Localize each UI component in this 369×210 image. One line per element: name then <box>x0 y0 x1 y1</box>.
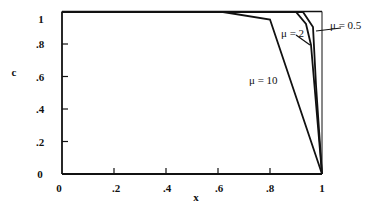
x-tick-label: .4 <box>163 182 172 194</box>
x-tick-label: 1 <box>319 182 325 194</box>
x-tick-label: .2 <box>112 182 121 194</box>
y-tick-label: 0 <box>37 168 43 180</box>
y-ticks <box>62 44 68 142</box>
series-label-mu-0-5: μ = 0.5 <box>330 19 362 31</box>
y-tick-label: 1 <box>38 13 44 25</box>
chart: 0 .2 .4 .6 .8 1 0 .2 .4 .6 .8 1 x c μ = … <box>0 0 369 210</box>
y-tick-label: .2 <box>36 136 45 148</box>
y-axis-label: c <box>12 66 17 78</box>
x-axis-label: x <box>193 191 199 203</box>
x-tick-label: 0 <box>56 182 62 194</box>
x-tick-label: .8 <box>266 182 275 194</box>
series-label-mu-2: μ = 2 <box>281 27 304 39</box>
y-tick-label: .8 <box>36 38 45 50</box>
y-tick-label: .6 <box>36 71 45 83</box>
series-label-mu-10: μ = 10 <box>249 74 278 86</box>
x-tick-label: .6 <box>215 182 224 194</box>
y-tick-label: .4 <box>36 103 45 115</box>
